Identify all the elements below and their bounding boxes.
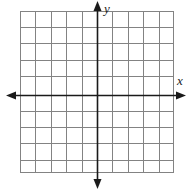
coordinate-plane-svg: y x — [0, 0, 191, 191]
y-axis-label: y — [102, 1, 110, 16]
x-axis-arrow-right-icon — [176, 92, 186, 100]
graph-figure: y x — [0, 0, 191, 191]
y-axis-arrow-up-icon — [94, 1, 102, 11]
x-axis-arrow-left-icon — [6, 92, 16, 100]
x-axis-label: x — [176, 73, 183, 88]
y-axis-arrow-down-icon — [94, 179, 102, 189]
